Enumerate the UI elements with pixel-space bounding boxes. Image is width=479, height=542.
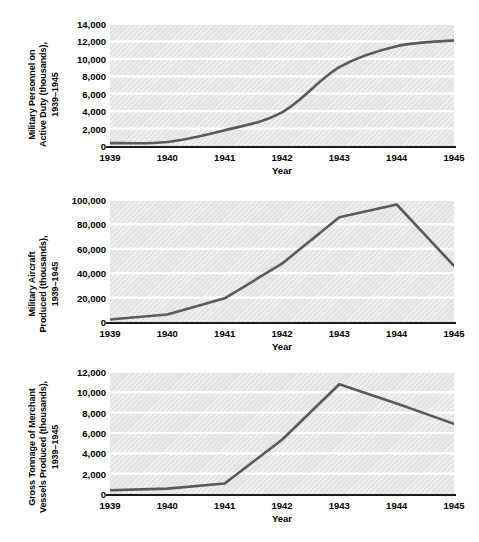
y-tick-labels: 020,00040,00060,00080,000100,000 bbox=[50, 200, 106, 322]
x-tick-label: 1944 bbox=[386, 328, 407, 339]
x-tick-label: 1944 bbox=[386, 500, 407, 511]
x-axis-line bbox=[106, 146, 456, 148]
x-tick-labels: 1939194019411942194319441945 bbox=[110, 500, 454, 514]
plot-area bbox=[110, 24, 454, 146]
y-tick-label: 10,000 bbox=[77, 53, 106, 64]
y-tick-label: 8,000 bbox=[82, 407, 106, 418]
y-tick-label: 6,000 bbox=[82, 428, 106, 439]
x-tick-label: 1941 bbox=[214, 500, 235, 511]
x-axis-title: Year bbox=[272, 513, 292, 524]
y-tick-label: 80,000 bbox=[77, 219, 106, 230]
plot-svg bbox=[110, 24, 454, 146]
y-tick-label: 2,000 bbox=[82, 123, 106, 134]
x-tick-label: 1945 bbox=[443, 328, 464, 339]
x-tick-label: 1943 bbox=[329, 500, 350, 511]
x-tick-label: 1945 bbox=[443, 500, 464, 511]
x-tick-label: 1941 bbox=[214, 328, 235, 339]
y-tick-label: 4,000 bbox=[82, 106, 106, 117]
x-tick-label: 1941 bbox=[214, 152, 235, 163]
charts-stack: Military Personnel onActive Duty (thousa… bbox=[0, 0, 479, 542]
x-tick-label: 1942 bbox=[271, 500, 292, 511]
y-tick-label: 6,000 bbox=[82, 88, 106, 99]
plot-svg bbox=[110, 200, 454, 322]
y-tick-labels: 02,0004,0006,0008,00010,00012,00014,000 bbox=[50, 24, 106, 146]
x-axis-line bbox=[106, 494, 456, 496]
plot-area bbox=[110, 200, 454, 322]
y-tick-label: 14,000 bbox=[77, 19, 106, 30]
x-tick-label: 1945 bbox=[443, 152, 464, 163]
x-tick-label: 1940 bbox=[157, 500, 178, 511]
x-tick-label: 1943 bbox=[329, 328, 350, 339]
y-tick-labels: 02,0004,0006,0008,00010,00012,000 bbox=[50, 372, 106, 494]
x-tick-label: 1942 bbox=[271, 328, 292, 339]
data-series-line bbox=[110, 205, 454, 320]
plot-area bbox=[110, 372, 454, 494]
y-tick-label: 100,000 bbox=[72, 195, 106, 206]
x-tick-label: 1940 bbox=[157, 328, 178, 339]
plot-svg bbox=[110, 372, 454, 494]
x-tick-label: 1940 bbox=[157, 152, 178, 163]
x-tick-labels: 1939194019411942194319441945 bbox=[110, 152, 454, 166]
x-axis-title: Year bbox=[272, 165, 292, 176]
x-tick-label: 1942 bbox=[271, 152, 292, 163]
y-tick-label: 12,000 bbox=[77, 36, 106, 47]
chart-merchant-vessels: Gross Tonnage of MerchantVessels Produce… bbox=[0, 358, 479, 542]
y-tick-label: 20,000 bbox=[77, 292, 106, 303]
y-tick-label: 4,000 bbox=[82, 448, 106, 459]
chart-military-aircraft: Military AircraftProduced (thousands),19… bbox=[0, 180, 479, 360]
chart-military-personnel: Military Personnel onActive Duty (thousa… bbox=[0, 0, 479, 183]
x-tick-label: 1943 bbox=[329, 152, 350, 163]
x-tick-label: 1944 bbox=[386, 152, 407, 163]
y-tick-label: 40,000 bbox=[77, 268, 106, 279]
y-tick-label: 8,000 bbox=[82, 71, 106, 82]
x-tick-labels: 1939194019411942194319441945 bbox=[110, 328, 454, 342]
x-tick-label: 1939 bbox=[99, 328, 120, 339]
y-tick-label: 12,000 bbox=[77, 367, 106, 378]
x-axis-line bbox=[106, 322, 456, 324]
x-tick-label: 1939 bbox=[99, 500, 120, 511]
y-tick-label: 60,000 bbox=[77, 243, 106, 254]
x-axis-title: Year bbox=[272, 341, 292, 352]
y-tick-label: 2,000 bbox=[82, 468, 106, 479]
y-tick-label: 10,000 bbox=[77, 387, 106, 398]
x-tick-label: 1939 bbox=[99, 152, 120, 163]
